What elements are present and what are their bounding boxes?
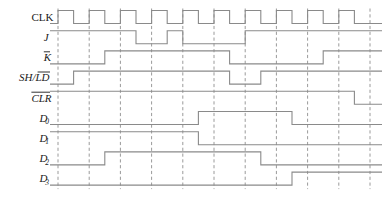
- signal-label-subscript-d0: 0: [45, 117, 49, 126]
- signal-labels-group: CLKJKSH/LDCLRD0D1D2D3: [19, 11, 53, 187]
- waveforms-group: [50, 11, 382, 186]
- waveform-d3: [50, 172, 382, 185]
- timing-diagram-root: CLKJKSH/LDCLRD0D1D2D3: [0, 0, 382, 207]
- waveform-d2: [50, 152, 382, 165]
- waveform-d1: [50, 132, 382, 145]
- signal-label-subscript-d1: 1: [45, 137, 49, 146]
- timing-diagram-canvas: CLKJKSH/LDCLRD0D1D2D3: [0, 0, 382, 207]
- signal-label-clk: CLK: [31, 11, 53, 23]
- waveform-d0: [50, 112, 382, 125]
- signal-label-sh-ld: SH/LD: [19, 71, 50, 83]
- signal-label-clr: CLR: [31, 92, 51, 104]
- signal-label-subscript-d2: 2: [45, 158, 49, 167]
- waveform-sh-ld: [50, 71, 382, 84]
- waveform-k: [50, 51, 382, 64]
- waveform-clr: [50, 91, 382, 104]
- waveform-j: [50, 31, 382, 44]
- waveform-clk: [50, 11, 382, 24]
- signal-label-subscript-d3: 3: [44, 178, 49, 187]
- signal-label-k: K: [43, 51, 52, 63]
- signal-label-j: J: [44, 31, 50, 43]
